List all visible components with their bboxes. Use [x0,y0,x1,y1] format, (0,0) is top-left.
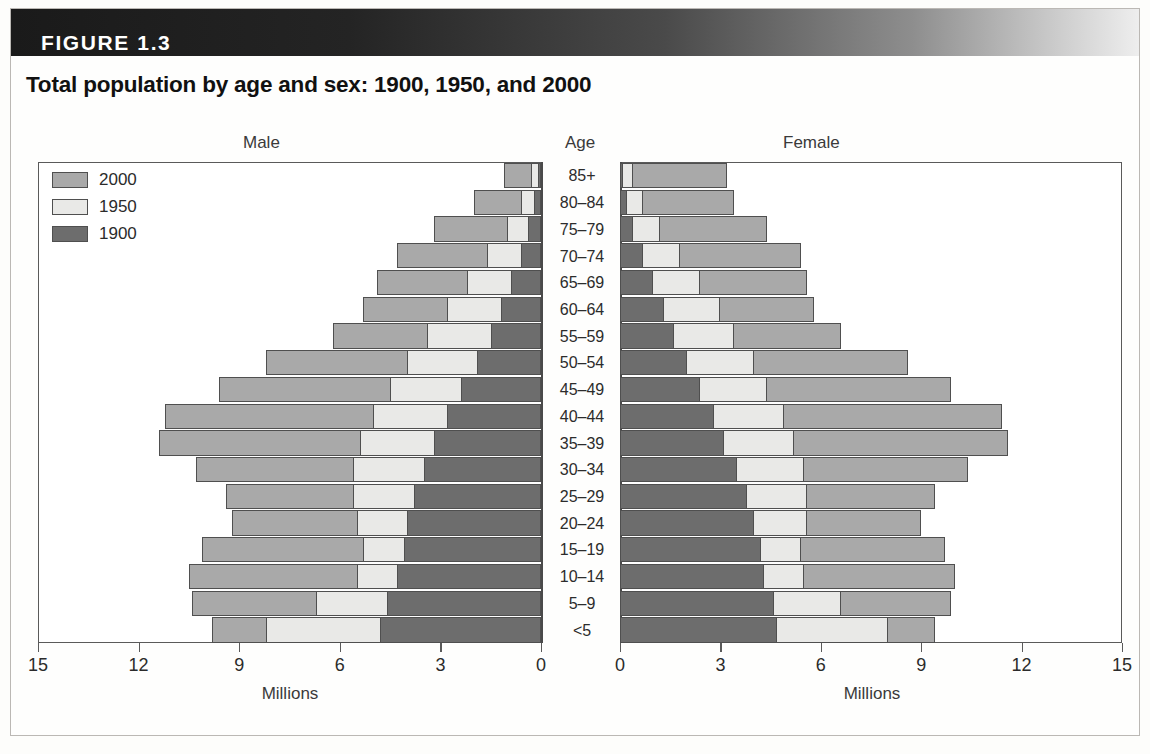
legend-item-2000: 2000 [52,168,137,191]
chart-legend: 200019501900 [52,168,137,249]
bar-male-1900 [447,404,541,429]
bar-female-1900 [620,457,737,482]
age-group-label: 70–74 [544,249,620,265]
tick-mark [38,643,39,652]
age-group-label: 65–69 [544,275,620,291]
tick-mark [340,643,341,652]
age-group-label: 80–84 [544,195,620,211]
age-group-label: 5–9 [544,596,620,612]
bar-female-1900 [620,297,664,322]
bar-male-1900 [511,270,541,295]
bar-male-1900 [397,564,541,589]
bar-male-1900 [461,377,541,402]
bar-male-1900 [528,216,541,241]
axis-tick-label-male: 6 [320,655,360,676]
axis-tick-label-male: 12 [119,655,159,676]
bar-female-1900 [620,377,700,402]
bar-female-1900 [620,484,747,509]
age-group-label: 20–24 [544,516,620,532]
bar-male-1900 [414,484,541,509]
axis-tick-label-female: 3 [700,655,740,676]
axis-tick-label-male: 3 [420,655,460,676]
bar-male-1900 [491,323,541,348]
bar-male-1900 [501,297,541,322]
bar-female-1900 [620,617,777,642]
center-axis-male [541,162,543,643]
axis-caption-male: Millions [230,684,350,704]
age-group-label: 60–64 [544,302,620,318]
bar-female-1900 [620,591,774,616]
bar-male-1900 [534,190,541,215]
bar-female-1900 [620,190,627,215]
age-group-label: 45–49 [544,382,620,398]
figure-header-band: FIGURE 1.3 [11,9,1139,56]
tick-mark [440,643,441,652]
tick-mark [921,643,922,652]
bar-female-1900 [620,163,623,188]
tick-mark [139,643,140,652]
age-group-label: 10–14 [544,569,620,585]
tick-mark [620,643,621,652]
column-heading-male: Male [243,133,280,153]
axis-tick-label-male: 0 [521,655,561,676]
age-group-label: 40–44 [544,409,620,425]
tick-mark [541,643,542,652]
axis-tick-label-female: 15 [1102,655,1142,676]
figure-number-label: FIGURE 1.3 [41,31,171,55]
legend-label: 1900 [99,224,137,244]
tick-mark [1122,643,1123,652]
figure-page: FIGURE 1.3 Total population by age and s… [0,0,1150,754]
bar-male-1900 [434,430,541,455]
bar-male-1900 [521,243,541,268]
bar-male-1900 [404,537,541,562]
axis-tick-label-female: 6 [801,655,841,676]
axis-tick-label-female: 9 [901,655,941,676]
bar-female-1900 [620,430,724,455]
legend-swatch-2000 [52,172,88,188]
bar-male-1900 [424,457,541,482]
age-group-label: 85+ [544,168,620,184]
bar-female-1900 [620,323,674,348]
bar-female-1900 [620,404,714,429]
bar-female-1900 [620,350,687,375]
axis-tick-label-male: 9 [219,655,259,676]
tick-mark [720,643,721,652]
bar-female-1900 [620,270,653,295]
bar-male-1900 [407,510,541,535]
column-heading-female: Female [783,133,840,153]
bar-male-1900 [477,350,541,375]
bar-male-1900 [380,617,541,642]
legend-swatch-1950 [52,199,88,215]
age-group-label: 75–79 [544,222,620,238]
tick-mark [821,643,822,652]
bar-male-1900 [538,163,541,188]
legend-item-1950: 1950 [52,195,137,218]
bar-female-1900 [620,243,643,268]
column-heading-age: Age [565,133,595,153]
age-group-label: 50–54 [544,355,620,371]
axis-caption-female: Millions [812,684,932,704]
tick-mark [239,643,240,652]
tick-mark [1022,643,1023,652]
bar-female-2000 [620,163,727,188]
bar-female-1900 [620,564,764,589]
age-group-label: 55–59 [544,329,620,345]
age-group-label: 30–34 [544,462,620,478]
legend-swatch-1900 [52,226,88,242]
figure-title: Total population by age and sex: 1900, 1… [26,72,591,98]
legend-label: 2000 [99,170,137,190]
age-group-label: 35–39 [544,436,620,452]
bar-female-1900 [620,216,633,241]
bar-male-1900 [387,591,541,616]
age-label-strip: 85+80–8475–7970–7465–6960–6455–5950–5445… [544,162,620,643]
age-group-label: 25–29 [544,489,620,505]
age-group-label: <5 [544,623,620,639]
axis-tick-label-female: 0 [600,655,640,676]
legend-label: 1950 [99,197,137,217]
bar-female-1900 [620,537,761,562]
bar-female-1900 [620,510,754,535]
age-group-label: 15–19 [544,542,620,558]
axis-tick-label-male: 15 [18,655,58,676]
axis-tick-label-female: 12 [1002,655,1042,676]
legend-item-1900: 1900 [52,222,137,245]
